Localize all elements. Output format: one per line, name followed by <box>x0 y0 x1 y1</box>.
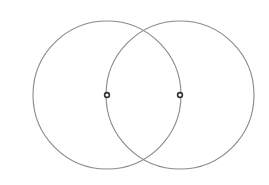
left-center-point <box>105 93 110 98</box>
vesica-piscis-diagram <box>0 0 269 185</box>
right-center-point <box>178 93 183 98</box>
